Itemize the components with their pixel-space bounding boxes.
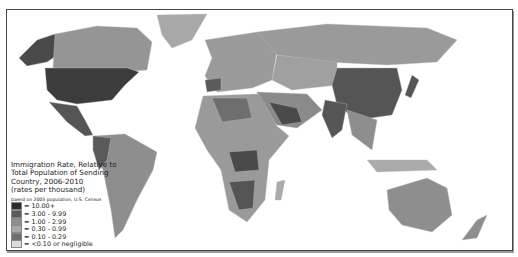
legend-item: = <0.10 or negligible [11, 241, 171, 249]
region-australia [387, 178, 452, 232]
region-spain [205, 78, 221, 92]
legend-swatch [11, 240, 22, 248]
map-frame: Immigration Rate, Relative to Total Popu… [6, 9, 513, 251]
region-alaska [19, 34, 59, 66]
region-indonesia [367, 160, 437, 172]
region-mexico [49, 102, 93, 136]
region-madagascar [275, 180, 285, 200]
region-usa [45, 68, 139, 104]
region-india [322, 100, 347, 138]
region-greenland [157, 14, 207, 48]
region-canada [53, 26, 152, 72]
legend-label: = <0.10 or negligible [24, 240, 93, 248]
region-japan [405, 75, 419, 98]
map-legend: Immigration Rate, Relative to Total Popu… [11, 161, 171, 248]
region-new-zealand [462, 215, 487, 240]
legend-title-line-4: (rates per thousand) [11, 186, 171, 194]
